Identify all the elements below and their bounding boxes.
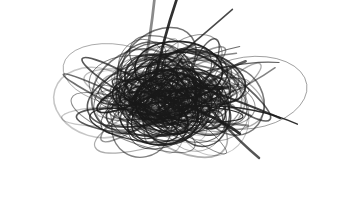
scribble-drawing xyxy=(0,0,344,197)
scribble-image: Dense chaotic pencil scribble on white b… xyxy=(0,0,344,197)
